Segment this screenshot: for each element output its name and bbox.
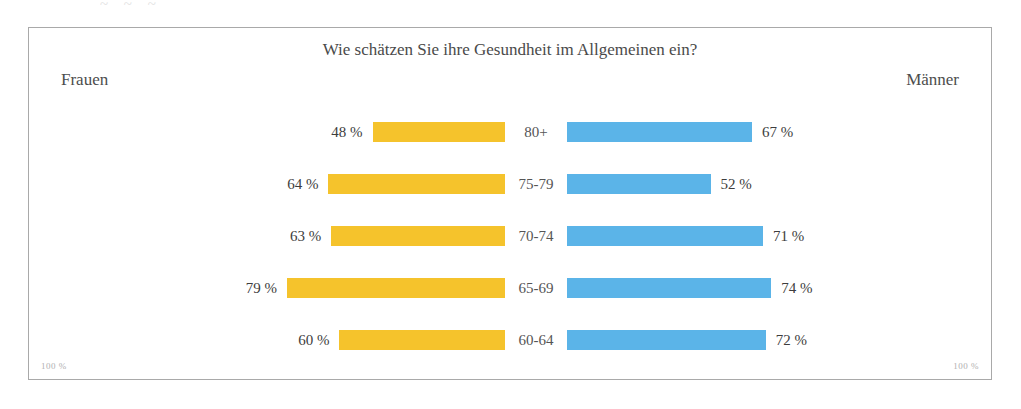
male-bar-group: 72 %	[567, 314, 991, 366]
category-label: 65-69	[505, 262, 567, 314]
male-bar-group: 74 %	[567, 262, 991, 314]
male-bar	[567, 330, 766, 350]
female-value-label: 63 %	[290, 228, 321, 245]
legend-label-frauen: Frauen	[61, 70, 108, 90]
male-value-label: 72 %	[776, 332, 807, 349]
male-bar-group: 71 %	[567, 210, 991, 262]
bar-row: 48 %80+67 %	[29, 106, 991, 158]
male-bar-group: 67 %	[567, 106, 991, 158]
male-bar-group: 52 %	[567, 158, 991, 210]
female-bar-group: 63 %	[29, 210, 505, 262]
female-bar	[287, 278, 505, 298]
category-label: 60-64	[505, 314, 567, 366]
axis-note-left: 100 %	[41, 361, 67, 371]
female-value-label: 64 %	[287, 176, 318, 193]
male-bar	[567, 226, 763, 246]
female-value-label: 60 %	[298, 332, 329, 349]
category-label: 75-79	[505, 158, 567, 210]
female-bar-group: 64 %	[29, 158, 505, 210]
chart-title: Wie schätzen Sie ihre Gesundheit im Allg…	[29, 40, 991, 60]
female-bar	[331, 226, 505, 246]
male-bar	[567, 174, 711, 194]
male-value-label: 71 %	[773, 228, 804, 245]
chart-screenshot: ~ ~ ~ Wie schätzen Sie ihre Gesundheit i…	[0, 0, 1021, 409]
female-value-label: 79 %	[246, 280, 277, 297]
female-bar-group: 48 %	[29, 106, 505, 158]
female-bar	[328, 174, 505, 194]
male-value-label: 67 %	[762, 124, 793, 141]
female-bar-group: 79 %	[29, 262, 505, 314]
male-value-label: 52 %	[721, 176, 752, 193]
male-value-label: 74 %	[781, 280, 812, 297]
female-bar	[339, 330, 505, 350]
male-bar	[567, 278, 771, 298]
female-value-label: 48 %	[331, 124, 362, 141]
chart-frame: Wie schätzen Sie ihre Gesundheit im Allg…	[28, 27, 992, 380]
axis-note-right: 100 %	[953, 361, 979, 371]
bar-row: 60 %60-6472 %	[29, 314, 991, 366]
category-label: 70-74	[505, 210, 567, 262]
bar-rows: 48 %80+67 %64 %75-7952 %63 %70-7471 %79 …	[29, 106, 991, 366]
male-bar	[567, 122, 752, 142]
legend-label-maenner: Männer	[906, 70, 959, 90]
scan-artifact: ~ ~ ~	[100, 0, 800, 14]
bar-row: 64 %75-7952 %	[29, 158, 991, 210]
female-bar-group: 60 %	[29, 314, 505, 366]
category-label: 80+	[505, 106, 567, 158]
bar-row: 79 %65-6974 %	[29, 262, 991, 314]
female-bar	[373, 122, 505, 142]
bar-row: 63 %70-7471 %	[29, 210, 991, 262]
